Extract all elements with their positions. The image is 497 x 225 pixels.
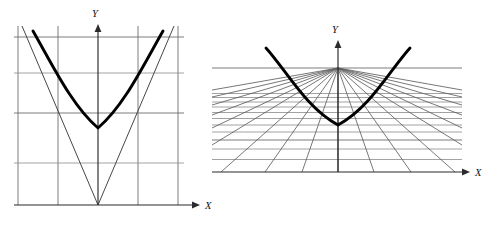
figure-root: Y X: [0, 0, 497, 225]
right-grid-horizontal-lines: [212, 68, 462, 160]
y-axis-label: Y: [332, 24, 339, 35]
y-axis-arrowhead: [335, 40, 342, 48]
perspective-ray: [265, 68, 338, 172]
right-projective-panel: Y X: [0, 0, 497, 225]
perspective-ray: [338, 68, 455, 172]
perspective-ray: [212, 68, 338, 97]
perspective-ray: [338, 68, 462, 97]
x-axis-label: X: [474, 167, 482, 178]
right-axes: [212, 40, 470, 176]
perspective-ray: [338, 68, 462, 128]
perspective-ray: [221, 68, 338, 172]
perspective-ray: [338, 68, 411, 172]
perspective-ray: [212, 68, 338, 128]
perspective-ray: [338, 68, 462, 145]
right-grid-perspective-rays: [212, 68, 462, 172]
perspective-ray: [212, 68, 338, 115]
x-axis-arrowhead: [462, 168, 470, 175]
perspective-ray: [212, 68, 338, 145]
perspective-ray: [338, 68, 462, 115]
